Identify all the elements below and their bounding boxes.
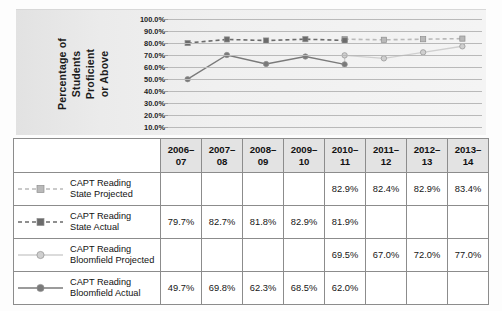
y-tick-label: 90.0% (144, 26, 165, 35)
table-cell-r1-c1: 82.7% (202, 206, 243, 239)
table-cell-r1-c7 (448, 206, 489, 239)
y-tick-mark (163, 91, 168, 92)
column-header-year-end: 10 (284, 156, 324, 168)
grid-line (168, 67, 482, 68)
y-tick-label: 100.0% (140, 14, 165, 23)
table-row: CAPT ReadingBloomfield Actual49.7%69.8%6… (14, 272, 489, 305)
table-cell-r1-c6 (407, 206, 448, 239)
row-label-line2: State Actual (70, 222, 131, 233)
table-row: CAPT ReadingBloomfield Projected69.5%67.… (14, 239, 489, 272)
y-tick-mark (163, 127, 168, 128)
table-cell-r2-c0 (161, 239, 202, 272)
row-header-2: CAPT ReadingBloomfield Projected (14, 239, 161, 272)
table-header-row: 2006–072007–082008–092009–102010–112011–… (14, 139, 489, 173)
column-header-year-end: 08 (202, 156, 242, 168)
legend-swatch (17, 214, 65, 230)
table-cell-r2-c4: 69.5% (325, 239, 366, 272)
column-header-year-start: 2008– (243, 144, 283, 156)
table-cell-r1-c5 (366, 206, 407, 239)
legend-line-icon (14, 173, 68, 205)
y-tick-label: 10.0% (144, 122, 165, 131)
y-axis-title-line-0: Percentage of (55, 38, 69, 110)
y-tick-mark (163, 19, 168, 20)
grid-line (168, 103, 482, 104)
table-cell-r3-c4: 62.0% (325, 272, 366, 305)
table-row: CAPT ReadingState Actual79.7%82.7%81.8%8… (14, 206, 489, 239)
row-label: CAPT ReadingBloomfield Actual (68, 277, 140, 299)
grid-line (168, 43, 482, 44)
legend-swatch (17, 181, 65, 197)
y-tick-mark (163, 79, 168, 80)
series-line-2 (345, 46, 463, 58)
table-cell-r3-c5 (366, 272, 407, 305)
row-label: CAPT ReadingState Actual (68, 211, 131, 233)
y-axis-title: Percentage ofStudentsProficientor Above (30, 16, 136, 132)
grid-line (168, 115, 482, 116)
row-header-0: CAPT ReadingState Projected (14, 173, 161, 206)
plot-area (168, 15, 482, 133)
table-cell-r0-c3 (284, 173, 325, 206)
table-cell-r1-c4: 81.9% (325, 206, 366, 239)
data-table-wrapper: 2006–072007–082008–092009–102010–112011–… (13, 138, 489, 300)
table-header: 2006–072007–082008–092009–102010–112011–… (14, 139, 489, 173)
data-table: 2006–072007–082008–092009–102010–112011–… (13, 138, 489, 305)
table-corner-cell (14, 139, 161, 173)
table-cell-r0-c5: 82.4% (366, 173, 407, 206)
row-header-3: CAPT ReadingBloomfield Actual (14, 272, 161, 305)
data-point-marker-0 (381, 37, 386, 42)
plot-area-wrapper: 100.0%90.0%80.0%70.0%60.0%50.0%40.0%30.0… (124, 15, 482, 133)
table-cell-r3-c0: 49.7% (161, 272, 202, 305)
row-label: CAPT ReadingState Projected (68, 178, 133, 200)
column-header-4: 2010–11 (325, 139, 366, 173)
table-cell-r3-c1: 69.8% (202, 272, 243, 305)
table-cell-r2-c5: 67.0% (366, 239, 407, 272)
data-point-marker-1 (224, 37, 229, 42)
row-label: CAPT ReadingBloomfield Projected (68, 244, 154, 266)
column-header-1: 2007–08 (202, 139, 243, 173)
y-axis-title-line-3: or Above (97, 38, 111, 110)
y-axis-tick-labels: 100.0%90.0%80.0%70.0%60.0%50.0%40.0%30.0… (124, 15, 167, 133)
column-header-year-end: 13 (407, 156, 447, 168)
table-cell-r3-c2: 62.3% (243, 272, 284, 305)
column-header-year-start: 2011– (366, 144, 406, 156)
row-label-line1: CAPT Reading (70, 244, 154, 255)
column-header-5: 2011–12 (366, 139, 407, 173)
column-header-year-start: 2007– (202, 144, 242, 156)
data-point-marker-0 (421, 37, 426, 42)
row-label-line1: CAPT Reading (70, 277, 140, 288)
row-label-line1: CAPT Reading (70, 178, 133, 189)
column-header-year-start: 2006– (161, 144, 201, 156)
table-cell-r1-c0: 79.7% (161, 206, 202, 239)
column-header-year-start: 2013– (448, 144, 488, 156)
y-tick-label: 40.0% (144, 86, 165, 95)
data-point-marker-3 (263, 61, 268, 66)
table-cell-r1-c2: 81.8% (243, 206, 284, 239)
legend-swatch (17, 247, 65, 263)
y-tick-mark (163, 67, 168, 68)
column-header-3: 2009–10 (284, 139, 325, 173)
table-cell-r2-c1 (202, 239, 243, 272)
table-cell-r0-c6: 82.9% (407, 173, 448, 206)
legend-line-icon (14, 206, 68, 238)
y-tick-mark (163, 115, 168, 116)
column-header-year-start: 2009– (284, 144, 324, 156)
row-label-line2: Bloomfield Projected (70, 255, 154, 266)
column-header-year-end: 09 (243, 156, 283, 168)
row-label-line2: State Projected (70, 189, 133, 200)
table-row: CAPT ReadingState Projected82.9%82.4%82.… (14, 173, 489, 206)
table-cell-r3-c6 (407, 272, 448, 305)
y-tick-label: 50.0% (144, 74, 165, 83)
table-body: CAPT ReadingState Projected82.9%82.4%82.… (14, 173, 489, 305)
column-header-year-end: 07 (161, 156, 201, 168)
y-axis-title-line-2: Proficient (83, 38, 97, 110)
series-line-0 (345, 39, 463, 40)
table-cell-r3-c3: 68.5% (284, 272, 325, 305)
column-header-year-end: 14 (448, 156, 488, 168)
y-tick-label: 30.0% (144, 98, 165, 107)
column-header-year-end: 11 (325, 156, 365, 168)
column-header-2: 2008–09 (243, 139, 284, 173)
grid-line (168, 31, 482, 32)
table-cell-r1-c3: 82.9% (284, 206, 325, 239)
y-tick-mark (163, 55, 168, 56)
data-point-marker-0 (460, 36, 465, 41)
